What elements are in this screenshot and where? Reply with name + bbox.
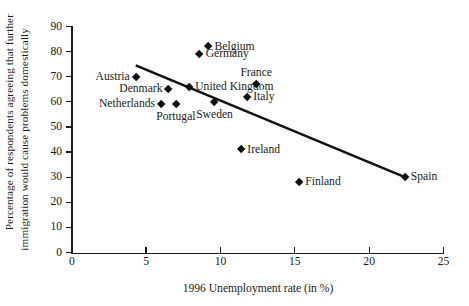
x-tick bbox=[294, 247, 295, 253]
y-tick bbox=[66, 51, 71, 52]
y-tick bbox=[66, 26, 71, 27]
y-tick-label: 70 bbox=[40, 71, 62, 83]
diamond-marker-icon bbox=[156, 100, 165, 109]
y-tick bbox=[66, 101, 71, 102]
data-point-label: Belgium bbox=[215, 41, 255, 53]
data-point-label: Sweden bbox=[196, 109, 233, 121]
y-tick-label: 80 bbox=[40, 46, 62, 58]
diamond-marker-icon bbox=[210, 97, 219, 106]
y-tick bbox=[66, 76, 71, 77]
y-tick-label: 60 bbox=[40, 96, 62, 108]
data-point-label: Austria bbox=[96, 71, 130, 83]
data-point-label: Portugal bbox=[156, 111, 195, 123]
x-tick bbox=[71, 247, 72, 253]
x-tick bbox=[369, 247, 370, 253]
y-tick bbox=[66, 202, 71, 203]
diamond-marker-icon bbox=[131, 72, 140, 81]
data-point-label: Finland bbox=[305, 176, 340, 188]
data-point-label: Netherlands bbox=[99, 98, 155, 110]
y-axis-label-line1: Percentage of respondents agreeing that … bbox=[4, 14, 15, 230]
y-tick bbox=[66, 177, 71, 178]
x-tick-label: 5 bbox=[131, 256, 161, 268]
diamond-marker-icon bbox=[185, 82, 194, 91]
x-tick-label: 20 bbox=[354, 256, 384, 268]
y-tick-label: 90 bbox=[40, 21, 62, 33]
x-tick-label: 15 bbox=[280, 256, 310, 268]
y-tick-label: 40 bbox=[40, 146, 62, 158]
y-axis-label-line2: immigration would cause problems domesti… bbox=[19, 28, 30, 251]
y-tick bbox=[66, 227, 71, 228]
x-axis bbox=[71, 253, 444, 255]
diamond-marker-icon bbox=[195, 50, 204, 59]
data-point-label: Ireland bbox=[247, 144, 280, 156]
x-tick bbox=[220, 247, 221, 253]
diamond-marker-icon bbox=[171, 100, 180, 109]
diamond-marker-icon bbox=[237, 145, 246, 154]
scatter-chart: Percentage of respondents agreeing that … bbox=[0, 0, 469, 306]
diamond-marker-icon bbox=[295, 178, 304, 187]
x-tick bbox=[145, 247, 146, 253]
data-point-label: Denmark bbox=[119, 83, 162, 95]
y-tick-label: 10 bbox=[40, 221, 62, 233]
y-tick bbox=[66, 126, 71, 127]
diamond-marker-icon bbox=[243, 92, 252, 101]
data-point-label: Spain bbox=[411, 171, 437, 183]
x-axis-label: 1996 Unemployment rate (in %) bbox=[72, 282, 444, 295]
x-tick-label: 10 bbox=[205, 256, 235, 268]
x-tick-label: 0 bbox=[57, 256, 87, 268]
diamond-marker-icon bbox=[164, 85, 173, 94]
x-tick-label: 25 bbox=[429, 256, 459, 268]
y-tick-label: 20 bbox=[40, 196, 62, 208]
data-point-label: Italy bbox=[253, 91, 274, 103]
y-axis bbox=[71, 26, 73, 254]
x-tick bbox=[443, 247, 444, 253]
data-point-label: France bbox=[240, 67, 272, 79]
y-tick bbox=[66, 151, 71, 152]
y-tick-label: 50 bbox=[40, 121, 62, 133]
diamond-marker-icon bbox=[400, 173, 409, 182]
y-tick-label: 30 bbox=[40, 171, 62, 183]
